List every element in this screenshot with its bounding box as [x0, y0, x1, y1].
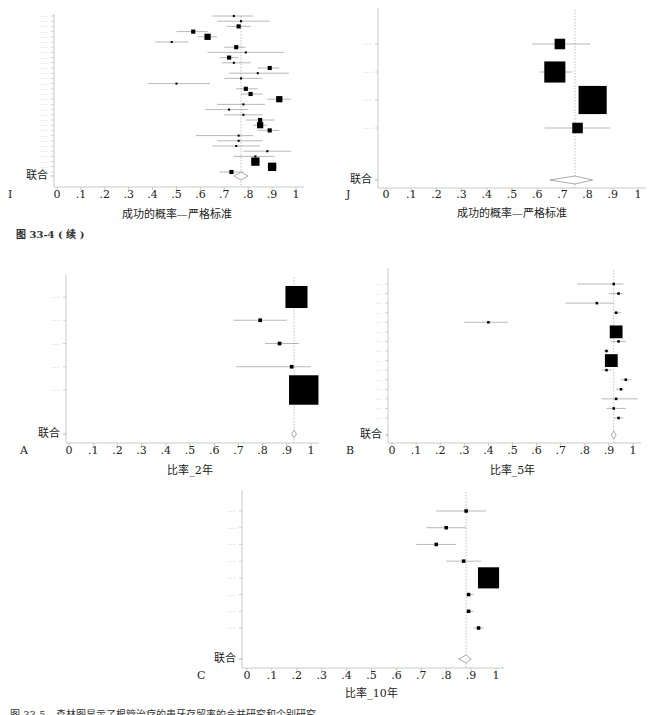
- study-label: ‒‒‒‒‒‒: [228, 510, 237, 513]
- study-row: ‒‒‒‒‒‒: [228, 559, 481, 563]
- point-estimate-box: [444, 526, 448, 530]
- point-estimate-box: [477, 626, 481, 630]
- point-estimate-box: [464, 509, 468, 513]
- pooled-label: 联合: [214, 651, 236, 665]
- x-tick-label: 1: [493, 669, 500, 682]
- study-label: ‒‒‒‒‒‒: [228, 610, 237, 613]
- study-label: ‒‒‒‒‒‒: [228, 560, 237, 563]
- x-tick-label: .1: [267, 669, 278, 682]
- x-tick-label: .8: [441, 669, 452, 682]
- figure-caption-33-5: 图 33-5 森林图显示了根管治疗的患牙存留率的合并研究和个别研究: [10, 706, 316, 715]
- study-row: ‒‒‒‒‒‒: [228, 593, 474, 597]
- point-estimate-box: [478, 567, 499, 588]
- study-row: ‒‒‒‒‒‒: [228, 526, 466, 530]
- x-tick-label: .9: [466, 669, 477, 682]
- x-tick-label: .2: [292, 669, 303, 682]
- point-estimate-box: [467, 610, 471, 614]
- forest-plot-svg: ‒‒‒‒‒‒‒‒‒‒‒‒‒‒‒‒‒‒‒‒‒‒‒‒‒‒‒‒‒‒‒‒‒‒‒‒‒‒‒‒…: [0, 0, 661, 715]
- study-row: ‒‒‒‒‒‒: [228, 509, 486, 513]
- study-row: ‒‒‒‒‒‒: [228, 543, 457, 547]
- study-label: ‒‒‒‒‒‒: [228, 543, 237, 546]
- study-row: ‒‒‒‒‒‒: [228, 626, 484, 630]
- pooled-diamond: [459, 655, 471, 663]
- study-row: ‒‒‒‒‒‒: [228, 567, 499, 588]
- study-label: ‒‒‒‒‒‒: [228, 527, 237, 530]
- point-estimate-box: [467, 593, 471, 597]
- study-label: ‒‒‒‒‒‒: [228, 577, 237, 580]
- x-tick-label: .7: [416, 669, 427, 682]
- point-estimate-box: [462, 559, 466, 563]
- x-tick-label: .5: [366, 669, 377, 682]
- study-label: ‒‒‒‒‒‒: [228, 594, 237, 597]
- x-tick-label: .3: [316, 669, 327, 682]
- x-tick-label: 0: [244, 669, 251, 682]
- study-row: ‒‒‒‒‒‒: [228, 610, 474, 614]
- point-estimate-box: [434, 543, 438, 547]
- x-tick-label: .6: [391, 669, 402, 682]
- panel-letter: C: [197, 669, 205, 682]
- forest-plot-panel-c: ‒‒‒‒‒‒‒‒‒‒‒‒‒‒‒‒‒‒‒‒‒‒‒‒‒‒‒‒‒‒‒‒‒‒‒‒‒‒‒‒…: [0, 0, 661, 715]
- study-label: ‒‒‒‒‒‒: [228, 627, 237, 630]
- x-axis-title: 比率_10年: [345, 686, 398, 700]
- x-tick-label: .4: [341, 669, 352, 682]
